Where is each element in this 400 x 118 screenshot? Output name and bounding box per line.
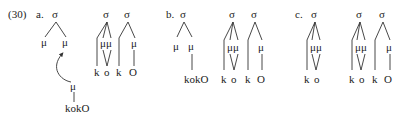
segment: O	[129, 66, 137, 78]
floating-mora: μ	[70, 80, 76, 92]
sigma-node: σ	[251, 8, 257, 20]
sigma-node: σ	[311, 8, 317, 20]
segment: k	[304, 73, 310, 85]
mora-node: μμ	[355, 41, 367, 53]
segment-string: kokO	[184, 73, 209, 85]
panel-label-c: c.	[295, 8, 303, 20]
example-number: (30)	[8, 8, 27, 21]
tree-b2: σ μμ k o	[221, 8, 239, 85]
association-arrow	[57, 54, 71, 82]
mora-node: μ	[173, 40, 179, 52]
panel-c: c. σ μμ k o σ μμ k o σ	[295, 8, 392, 85]
segment: k	[221, 73, 227, 85]
mora-node: μ	[62, 36, 68, 48]
tree-b1: σ μ μ kokO	[173, 8, 209, 85]
sigma-node: σ	[229, 8, 235, 20]
tree-c1: σ μμ k o	[304, 8, 322, 85]
segment: k	[349, 73, 355, 85]
segment: o	[231, 73, 237, 85]
segment: k	[116, 66, 122, 78]
tree-a2: σ μμ k o	[94, 8, 112, 78]
sigma-node: σ	[52, 8, 58, 20]
segment: o	[359, 73, 365, 85]
mora-node: μ	[188, 40, 194, 52]
mora-node: μμ	[227, 41, 239, 53]
segment: o	[104, 66, 110, 78]
tree-a1: σ μ μ μ kokO	[41, 8, 90, 114]
tree-a3: σ μ k O	[116, 8, 137, 78]
segment: O	[384, 73, 392, 85]
sigma-node: σ	[180, 8, 186, 20]
tree-c2: σ μμ k o	[349, 8, 367, 85]
mora-node: μ	[258, 41, 264, 53]
segment: o	[314, 73, 320, 85]
segment: k	[245, 73, 251, 85]
sigma-node: σ	[379, 8, 385, 20]
mora-node: μμ	[100, 37, 112, 49]
tree-c3: σ μ k O	[372, 8, 392, 85]
panel-b: b. σ μ μ kokO σ μμ k o σ	[166, 8, 265, 85]
mora-node: μμ	[310, 41, 322, 53]
mora-node: μ	[41, 36, 47, 48]
panel-label-b: b.	[166, 8, 175, 20]
tree-b3: σ μ k O	[245, 8, 265, 85]
segment: O	[257, 73, 265, 85]
panel-label-a: a.	[36, 8, 44, 20]
segment-string: kokO	[65, 102, 90, 114]
sigma-node: σ	[124, 8, 130, 20]
sigma-node: σ	[103, 8, 109, 20]
panel-a: a. σ μ μ μ kokO σ μμ k o	[36, 8, 137, 114]
mora-node: μ	[386, 41, 392, 53]
prosodic-tree-diagram: (30) a. σ μ μ μ kokO σ μμ k o	[0, 0, 400, 118]
segment: k	[94, 66, 100, 78]
segment: k	[372, 73, 378, 85]
sigma-node: σ	[356, 8, 362, 20]
mora-node: μ	[131, 37, 137, 49]
